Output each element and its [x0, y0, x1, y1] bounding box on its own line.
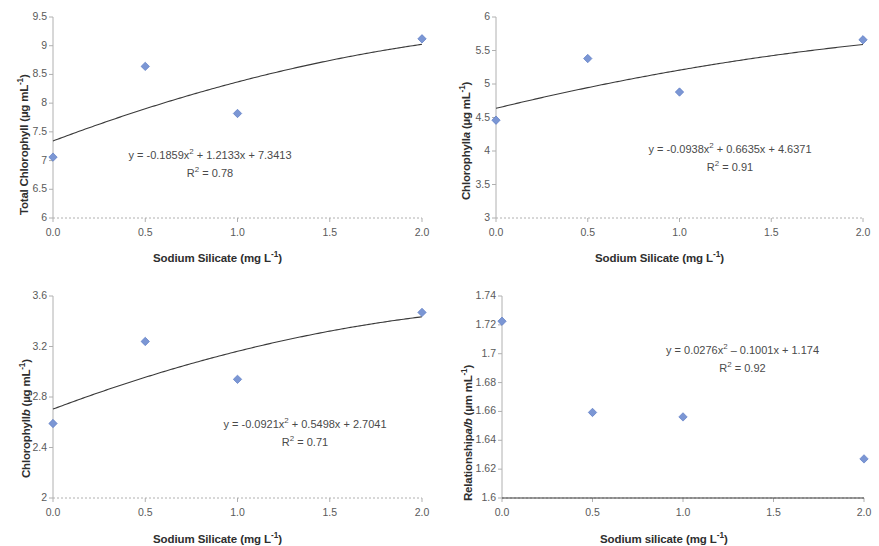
x-axis-tick-label: 2.0: [843, 226, 879, 238]
x-axis-tick-label: 0.0: [33, 226, 73, 238]
data-point-marker: [584, 54, 592, 62]
data-point-marker: [679, 413, 687, 421]
y-axis-tick-label: 2.4: [9, 441, 47, 453]
data-point-marker: [141, 62, 149, 70]
chart-panel-relationship-a-b: Relationshipa/b (µm mL-1) Sodium silicat…: [440, 273, 879, 546]
x-axis-title-total-chlorophyll: Sodium Silicate (mg L-1): [153, 250, 282, 264]
data-point-marker: [418, 308, 426, 316]
y-axis-tick-label: 7: [9, 154, 47, 166]
y-axis-tick-label: 3.6: [9, 289, 47, 301]
x-axis-tick-label: 1.5: [751, 226, 791, 238]
y-axis-tick-label: 1.66: [458, 404, 496, 416]
regression-curve: [53, 44, 422, 141]
data-point-marker: [233, 375, 241, 383]
chart-panel-chlorophyll-b: Chlorophyllb (µg mL-1) Sodium Silicate (…: [0, 273, 439, 546]
x-axis-tick-label: 0.5: [125, 226, 165, 238]
y-axis-tick-label: 5: [452, 77, 490, 89]
y-axis-tick-label: 4: [452, 144, 490, 156]
x-axis-tick-label: 2.0: [844, 506, 879, 518]
x-axis-tick-label: 0.5: [568, 226, 608, 238]
chart-panel-total-chlorophyll: Total Chlorophyll (µg mL-1) Sodium Silic…: [0, 0, 439, 273]
y-axis-tick-label: 1.74: [458, 289, 496, 301]
data-point-marker: [675, 88, 683, 96]
y-axis-tick-label: 9.5: [9, 10, 47, 22]
data-point-marker: [418, 35, 426, 43]
regression-equation-chlorophyll-b: y = -0.0921x2 + 0.5498x + 2.7041 R2 = 0.…: [190, 415, 420, 450]
regression-equation-total-chlorophyll: y = -0.1859x2 + 1.2133x + 7.3413 R2 = 0.…: [95, 146, 325, 181]
x-axis-title-chlorophyll-b: Sodium Silicate (mg L-1): [153, 531, 282, 545]
y-axis-tick-label: 2: [9, 491, 47, 503]
x-axis-tick-label: 2.0: [402, 506, 442, 518]
x-axis-tick-label: 0.0: [33, 506, 73, 518]
regression-equation-chlorophyll-a: y = -0.0938x2 + 0.6635x + 4.6371 R2 = 0.…: [615, 140, 845, 175]
regression-curve: [53, 317, 422, 409]
y-axis-tick-label: 1.7: [458, 347, 496, 359]
data-point-marker: [49, 419, 57, 427]
y-axis-tick-label: 8: [9, 96, 47, 108]
y-axis-tick-label: 4.5: [452, 111, 490, 123]
y-axis-tick-label: 8.5: [9, 67, 47, 79]
x-axis-tick-label: 1.0: [660, 226, 700, 238]
x-axis-tick-label: 1.0: [218, 226, 258, 238]
y-axis-tick-label: 6: [452, 10, 490, 22]
x-axis-title-chlorophyll-a: Sodium Silicate (mg L-1): [595, 250, 724, 264]
y-axis-tick-label: 5.5: [452, 44, 490, 56]
data-point-marker: [141, 337, 149, 345]
y-axis-tick-label: 1.62: [458, 462, 496, 474]
data-point-marker: [49, 153, 57, 161]
data-point-marker: [859, 36, 867, 44]
x-axis-tick-label: 1.0: [663, 506, 703, 518]
x-axis-tick-label: 0.5: [125, 506, 165, 518]
data-point-marker: [588, 408, 596, 416]
y-axis-tick-label: 1.6: [458, 491, 496, 503]
x-axis-tick-label: 2.0: [402, 226, 442, 238]
regression-curve: [496, 45, 863, 109]
x-axis-tick-label: 1.5: [310, 226, 350, 238]
x-axis-tick-label: 0.0: [482, 506, 522, 518]
x-axis-title-relationship-a-b: Sodium silicate (mg L-1): [600, 531, 728, 545]
regression-equation-relationship-a-b: y = 0.0276x2 – 0.1001x + 1.174 R2 = 0.92: [625, 341, 860, 376]
data-point-marker: [498, 317, 506, 325]
y-axis-tick-label: 6: [9, 211, 47, 223]
chart-panel-chlorophyll-a: Chlorophylla (µg mL-1) Sodium Silicate (…: [440, 0, 879, 273]
y-axis-title-chlorophyll-b: Chlorophyllb (µg mL-1): [18, 359, 32, 478]
y-axis-tick-label: 3: [452, 211, 490, 223]
data-point-marker: [233, 109, 241, 117]
y-axis-tick-label: 7.5: [9, 125, 47, 137]
y-axis-tick-label: 6.5: [9, 182, 47, 194]
data-point-marker: [860, 455, 868, 463]
x-axis-tick-label: 1.0: [218, 506, 258, 518]
y-axis-tick-label: 3.5: [452, 178, 490, 190]
y-axis-tick-label: 1.68: [458, 376, 496, 388]
y-axis-tick-label: 1.72: [458, 318, 496, 330]
y-axis-tick-label: 2.8: [9, 390, 47, 402]
y-axis-tick-label: 9: [9, 39, 47, 51]
x-axis-tick-label: 0.0: [476, 226, 516, 238]
x-axis-tick-label: 1.5: [310, 506, 350, 518]
x-axis-tick-label: 0.5: [573, 506, 613, 518]
y-axis-tick-label: 1.64: [458, 433, 496, 445]
x-axis-tick-label: 1.5: [754, 506, 794, 518]
y-axis-tick-label: 3.2: [9, 340, 47, 352]
